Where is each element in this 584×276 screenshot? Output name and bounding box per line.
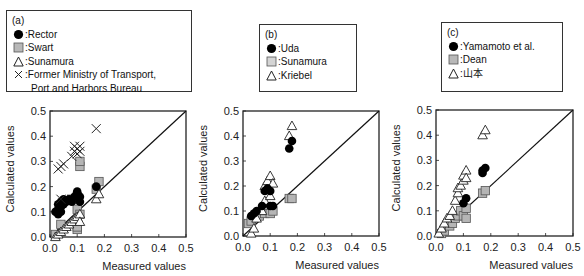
y-tick-label: 0.2 bbox=[31, 181, 46, 193]
x-tick-label: 0.4 bbox=[538, 241, 553, 253]
x-tick-label: 0.0 bbox=[42, 242, 57, 254]
x-tick-label: 0.4 bbox=[344, 241, 359, 253]
plot-a: 0.00.10.20.30.40.50.00.10.20.30.40.5Meas… bbox=[4, 105, 194, 272]
x-axis-label: Measured values bbox=[102, 260, 186, 272]
plot-c: 0.00.10.20.30.40.50.00.10.20.30.40.5Meas… bbox=[390, 104, 581, 271]
y-tick-label: 0.2 bbox=[417, 180, 432, 192]
x-tick-label: 0.3 bbox=[511, 241, 526, 253]
x-tick-label: 0.0 bbox=[428, 241, 443, 253]
x-tick-label: 0.1 bbox=[456, 241, 471, 253]
x-tick-label: 0.5 bbox=[565, 241, 580, 253]
y-tick-label: 0.4 bbox=[31, 130, 46, 142]
y-tick-label: 0.3 bbox=[417, 154, 432, 166]
y-axis-label: Calculated values bbox=[197, 125, 209, 212]
x-tick-label: 0.5 bbox=[178, 242, 193, 254]
x-tick-label: 0.3 bbox=[124, 242, 139, 254]
y-axis-label: Calculated values bbox=[4, 125, 16, 212]
y-tick-label: 0.5 bbox=[224, 105, 239, 117]
y-tick-label: 0.3 bbox=[31, 155, 46, 167]
plot-b: 0.00.10.20.30.40.50.00.10.20.30.40.5Meas… bbox=[197, 105, 387, 271]
x-tick-label: 0.5 bbox=[371, 241, 386, 253]
y-tick-label: 0.2 bbox=[224, 180, 239, 192]
y-tick-label: 0.1 bbox=[417, 205, 432, 217]
y-axis-label: Calculated values bbox=[390, 124, 402, 211]
x-axis-label: Measured values bbox=[295, 259, 379, 271]
x-tick-label: 0.2 bbox=[483, 241, 498, 253]
x-tick-label: 0.0 bbox=[235, 241, 250, 253]
y-tick-label: 0.1 bbox=[31, 206, 46, 218]
scatter-plots: 0.00.10.20.30.40.50.00.10.20.30.40.5Meas… bbox=[0, 0, 584, 276]
x-axis-label: Measured values bbox=[489, 259, 573, 271]
x-tick-label: 0.2 bbox=[97, 242, 112, 254]
x-tick-label: 0.1 bbox=[263, 241, 278, 253]
x-tick-label: 0.1 bbox=[70, 242, 85, 254]
y-tick-label: 0.4 bbox=[417, 129, 432, 141]
x-tick-label: 0.2 bbox=[290, 241, 305, 253]
y-tick-label: 0.5 bbox=[417, 104, 432, 116]
y-tick-label: 0.1 bbox=[224, 205, 239, 217]
y-tick-label: 0.4 bbox=[224, 130, 239, 142]
x-tick-label: 0.3 bbox=[317, 241, 332, 253]
x-tick-label: 0.4 bbox=[151, 242, 166, 254]
y-tick-label: 0.3 bbox=[224, 155, 239, 167]
y-tick-label: 0.5 bbox=[31, 105, 46, 117]
